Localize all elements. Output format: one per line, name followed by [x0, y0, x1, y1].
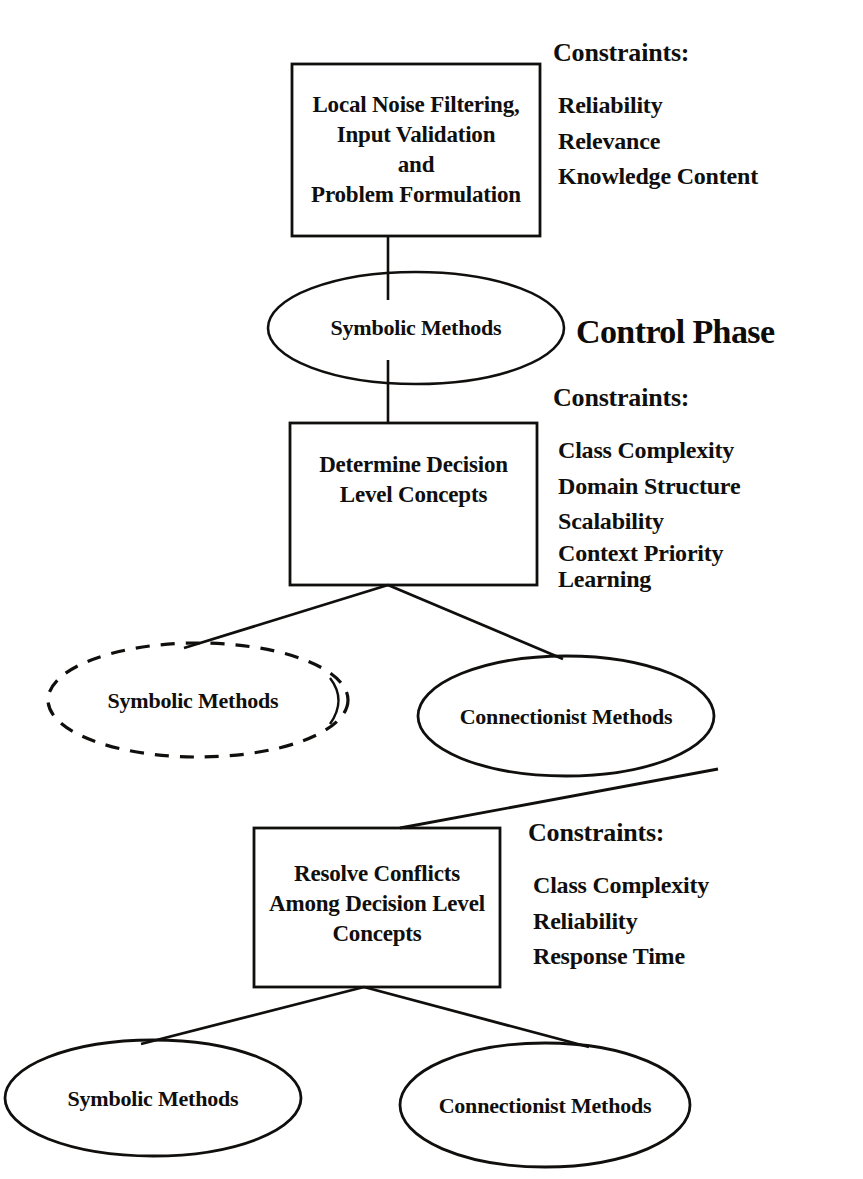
ellipse-symbolic-2[interactable] — [48, 643, 348, 757]
constraint-item: Scalability — [553, 504, 740, 540]
constraint-item: Response Time — [528, 939, 709, 975]
constraints-group-1: Constraints: Reliability Relevance Knowl… — [553, 38, 758, 195]
constraints-heading: Constraints: — [553, 383, 740, 413]
box-top[interactable] — [292, 64, 540, 236]
constraint-item: Class Complexity — [553, 433, 740, 469]
constraint-item: Reliability — [528, 904, 709, 940]
ellipse-symbolic-3[interactable] — [5, 1040, 301, 1156]
constraint-item: Domain Structure — [553, 469, 740, 505]
diagram-canvas: Local Noise Filtering, Input Validation … — [0, 0, 863, 1179]
connector-bottombox-to-symbolic3 — [141, 987, 364, 1044]
constraints-group-3: Constraints: Class Complexity Reliabilit… — [528, 818, 709, 975]
constraints-group-2: Constraints: Class Complexity Domain Str… — [553, 383, 740, 593]
box-middle[interactable] — [290, 423, 537, 585]
constraint-item: Knowledge Content — [553, 159, 758, 195]
ellipse-connectionist-2[interactable] — [400, 1043, 690, 1167]
connector-middlebox-to-symbolic2 — [184, 585, 388, 648]
constraint-item: Reliability — [553, 88, 758, 124]
page-title: Control Phase — [576, 313, 774, 351]
constraints-heading: Constraints: — [553, 38, 758, 68]
constraints-heading: Constraints: — [528, 818, 709, 848]
constraint-item: Learning — [553, 566, 740, 593]
box-bottom[interactable] — [254, 828, 500, 987]
constraint-item: Class Complexity — [528, 868, 709, 904]
constraint-item: Relevance — [553, 124, 758, 160]
connector-bottombox-to-connectionist2 — [364, 987, 589, 1047]
ellipse-connectionist-1[interactable] — [418, 656, 714, 776]
ellipse-symbolic-1[interactable] — [268, 272, 564, 384]
constraint-item: Context Priority — [553, 540, 740, 567]
connector-middlebox-to-connectionist1 — [388, 585, 563, 659]
